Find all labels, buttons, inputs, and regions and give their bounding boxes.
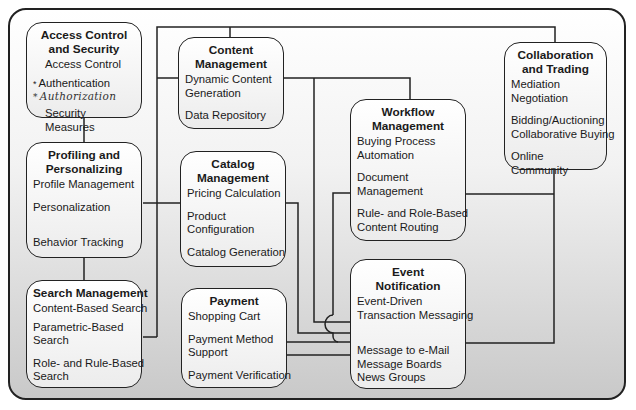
item-message-boards: Message Boards xyxy=(357,358,459,372)
item-shopping-cart: Shopping Cart xyxy=(188,310,280,324)
item-role-rule-based: Role- and Rule-Based xyxy=(33,357,135,371)
box-title: Event Notification xyxy=(357,265,459,293)
item-bidding-auctioning: Bidding/Auctioning xyxy=(511,114,600,128)
item-buying-process: Buying Process xyxy=(357,135,459,149)
box-title: Content Management xyxy=(185,43,277,71)
box-workflow-management: Workflow Management Buying Process Autom… xyxy=(350,99,466,241)
box-title: Profiling and Personalizing xyxy=(33,148,135,176)
item-negotiation: Negotiation xyxy=(511,92,600,106)
box-title: Catalog Management xyxy=(187,157,279,185)
box-title: Collaboration and Trading xyxy=(511,48,600,76)
box-collaboration-trading: Collaboration and Trading Mediation Nego… xyxy=(504,42,607,170)
item-collaborative-buying: Collaborative Buying xyxy=(511,128,600,142)
item-search: Search xyxy=(33,370,135,384)
box-title: Payment xyxy=(188,294,280,308)
item-data-repository: Data Repository xyxy=(185,109,277,123)
item-content-routing: Content Routing xyxy=(357,221,459,235)
item-document: Document xyxy=(357,171,459,185)
item-profile-management: Profile Management xyxy=(33,178,135,192)
item-access-control: Access Control xyxy=(33,58,135,72)
asterisk-icon: * xyxy=(33,92,38,102)
box-catalog-management: Catalog Management Pricing Calculation P… xyxy=(180,151,286,267)
item-online-community: Online Community xyxy=(511,150,600,177)
box-search-management: Search Management Content-Based Search P… xyxy=(26,280,142,388)
box-event-notification: Event Notification Event-Driven Transact… xyxy=(350,259,466,389)
item-behavior-tracking: Behavior Tracking xyxy=(33,236,135,250)
box-access-control-security: Access Control and Security Access Contr… xyxy=(26,22,142,118)
item-authentication: *Authentication xyxy=(33,77,135,92)
item-pricing-calculation: Pricing Calculation xyxy=(187,187,279,201)
item-generation: Generation xyxy=(185,87,277,101)
item-product: Product xyxy=(187,210,279,224)
box-profiling-personalizing: Profiling and Personalizing Profile Mana… xyxy=(26,142,142,258)
item-personalization: Personalization xyxy=(33,201,135,215)
item-content-based-search: Content-Based Search xyxy=(33,302,135,316)
box-payment: Payment Shopping Cart Payment Method Sup… xyxy=(181,288,287,388)
item-payment-verification: Payment Verification xyxy=(188,369,280,383)
item-message-to-email: Message to e-Mail xyxy=(357,344,459,358)
item-automation: Automation xyxy=(357,149,459,163)
asterisk-icon: * xyxy=(33,79,37,89)
item-security-measures: Security Measures xyxy=(33,107,135,134)
item-catalog-generation: Catalog Generation xyxy=(187,246,279,260)
item-dynamic-content: Dynamic Content xyxy=(185,73,277,87)
item-transaction-messaging: Transaction Messaging xyxy=(357,309,459,323)
item-rule-role-based: Rule- and Role-Based xyxy=(357,207,459,221)
item-payment-method: Payment Method xyxy=(188,333,280,347)
box-title: Search Management xyxy=(33,286,135,300)
item-news-groups: News Groups xyxy=(357,371,459,385)
item-support: Support xyxy=(188,346,280,360)
item-event-driven: Event-Driven xyxy=(357,295,459,309)
box-content-management: Content Management Dynamic Content Gener… xyxy=(178,37,284,129)
box-title: Workflow Management xyxy=(357,105,459,133)
item-parametric-based: Parametric-Based xyxy=(33,321,135,335)
item-mediation: Mediation xyxy=(511,78,600,92)
item-search: Search xyxy=(33,334,135,348)
item-management: Management xyxy=(357,185,459,199)
item-authorization-handwritten: *Authorization xyxy=(33,91,135,103)
item-configuration: Configuration xyxy=(187,223,279,237)
box-title: Access Control and Security xyxy=(33,28,135,56)
